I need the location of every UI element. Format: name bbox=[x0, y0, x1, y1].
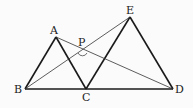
label-B: B bbox=[14, 83, 22, 96]
label-C: C bbox=[82, 91, 90, 104]
segment-ED bbox=[130, 17, 173, 89]
label-A: A bbox=[49, 24, 59, 37]
label-P: P bbox=[78, 36, 86, 49]
label-D: D bbox=[175, 83, 184, 96]
segment-AB bbox=[25, 37, 56, 89]
segment-AD bbox=[56, 37, 173, 89]
diagram-canvas: A B C D E P bbox=[0, 0, 193, 108]
segment-BE bbox=[25, 17, 130, 89]
geometry-diagram: A B C D E P bbox=[0, 0, 193, 108]
angle-mark-P bbox=[78, 53, 87, 56]
label-E: E bbox=[126, 4, 134, 17]
